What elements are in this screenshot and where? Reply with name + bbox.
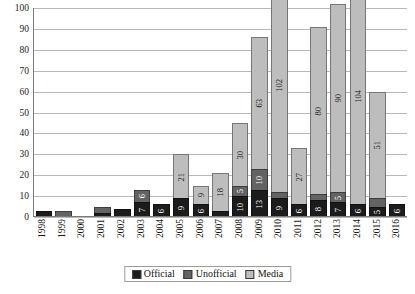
bar-value-label: 8 bbox=[314, 207, 323, 211]
x-axis-line bbox=[34, 216, 407, 217]
bar-segment-media-2007[interactable]: 18 bbox=[212, 173, 228, 211]
legend-item-unofficial[interactable]: Unofficial bbox=[184, 269, 237, 279]
bar-group-2010: 93102 bbox=[270, 8, 290, 217]
bar-value-label: 9 bbox=[177, 206, 186, 210]
bar-stack[interactable]: 7590 bbox=[330, 4, 346, 217]
bar-value-label: 51 bbox=[373, 141, 382, 150]
bar-segment-official-2005[interactable]: 9 bbox=[173, 198, 189, 217]
bar-value-label: 102 bbox=[275, 79, 284, 92]
x-axis-label-slot: 2012 bbox=[309, 219, 329, 261]
bar-value-label: 10 bbox=[255, 176, 264, 185]
bar-segment-unofficial-2003[interactable]: 6 bbox=[134, 190, 150, 203]
x-axis-label-2001: 2001 bbox=[97, 219, 107, 238]
chart-root: 0102030405060708090100 33234766921693181… bbox=[0, 0, 415, 294]
bar-value-label: 6 bbox=[393, 209, 402, 213]
legend-label-media: Media bbox=[258, 269, 284, 279]
x-axis-label-slot: 2001 bbox=[92, 219, 112, 261]
x-axis-label-slot: 2013 bbox=[328, 219, 348, 261]
bar-stack[interactable]: 318 bbox=[212, 173, 228, 217]
y-axis-tick-80: 80 bbox=[20, 46, 35, 56]
x-axis-label-2005: 2005 bbox=[176, 219, 186, 238]
bar-value-label: 6 bbox=[354, 209, 363, 213]
x-axis-label-slot: 2002 bbox=[112, 219, 132, 261]
bar-segment-media-2008[interactable]: 30 bbox=[232, 123, 248, 186]
x-axis-label-slot: 2014 bbox=[348, 219, 368, 261]
bar-segment-official-2010[interactable]: 9 bbox=[271, 198, 287, 217]
bar-value-label: 5 bbox=[334, 196, 343, 200]
bar-stack[interactable]: 131063 bbox=[251, 37, 267, 217]
legend-swatch-media bbox=[246, 270, 255, 279]
x-axis-label-2004: 2004 bbox=[156, 219, 166, 238]
bar-segment-unofficial-2012[interactable]: 3 bbox=[310, 194, 326, 200]
x-axis-label-slot: 1998 bbox=[33, 219, 53, 261]
bar-segment-unofficial-2008[interactable]: 5 bbox=[232, 186, 248, 196]
bar-segment-unofficial-2013[interactable]: 5 bbox=[330, 192, 346, 202]
bar-segment-unofficial-2015[interactable]: 4 bbox=[369, 198, 385, 206]
bar-segment-official-2012[interactable]: 8 bbox=[310, 200, 326, 217]
bar-value-label: 9 bbox=[197, 193, 206, 197]
bar-segment-unofficial-2009[interactable]: 10 bbox=[251, 169, 267, 190]
y-axis-tick-20: 20 bbox=[20, 171, 35, 181]
bar-group-2012: 8380 bbox=[309, 8, 329, 217]
x-axis-label-2015: 2015 bbox=[373, 219, 383, 238]
legend-item-media[interactable]: Media bbox=[246, 269, 284, 279]
x-axis-label-1998: 1998 bbox=[38, 219, 48, 238]
bar-segment-official-2013[interactable]: 7 bbox=[330, 202, 346, 217]
bar-group-2015: 5451 bbox=[368, 8, 388, 217]
bar-stack[interactable]: 5451 bbox=[369, 92, 385, 217]
x-axis-label-slot: 2003 bbox=[131, 219, 151, 261]
bar-segment-media-2012[interactable]: 80 bbox=[310, 27, 326, 194]
bar-value-label: 9 bbox=[275, 206, 284, 210]
bar-stack[interactable]: 76 bbox=[134, 190, 150, 217]
x-axis-label-2006: 2006 bbox=[196, 219, 206, 238]
bar-value-label: 63 bbox=[255, 99, 264, 108]
bar-segment-media-2006[interactable]: 9 bbox=[193, 186, 209, 205]
x-axis-label-2012: 2012 bbox=[314, 219, 324, 238]
legend-swatch-official bbox=[132, 270, 141, 279]
bar-group-1999: 3 bbox=[54, 8, 74, 217]
bar-stack[interactable]: 6104 bbox=[350, 0, 366, 217]
x-axis-label-2000: 2000 bbox=[77, 219, 87, 238]
bar-value-label: 13 bbox=[255, 200, 264, 209]
x-axis-label-2002: 2002 bbox=[117, 219, 127, 238]
bar-segment-media-2011[interactable]: 27 bbox=[291, 148, 307, 204]
bar-stack[interactable]: 921 bbox=[173, 154, 189, 217]
bar-segment-unofficial-2001[interactable]: 3 bbox=[94, 207, 110, 213]
bar-segment-media-2014[interactable]: 104 bbox=[350, 0, 366, 204]
bar-group-2002: 4 bbox=[113, 8, 133, 217]
bar-segment-media-2005[interactable]: 21 bbox=[173, 154, 189, 198]
bar-segment-official-2003[interactable]: 7 bbox=[134, 202, 150, 217]
x-axis-label-2003: 2003 bbox=[137, 219, 147, 238]
x-axis-label-slot: 2016 bbox=[387, 219, 407, 261]
bar-value-label: 7 bbox=[334, 208, 343, 212]
bar-stack[interactable]: 627 bbox=[291, 148, 307, 217]
x-axis-label-slot: 2015 bbox=[368, 219, 388, 261]
plot-area: 0102030405060708090100 33234766921693181… bbox=[33, 8, 407, 217]
chart-legend: Official Unofficial Media bbox=[124, 266, 291, 282]
legend-item-official[interactable]: Official bbox=[132, 269, 175, 279]
legend-label-unofficial: Unofficial bbox=[196, 269, 237, 279]
bar-segment-media-2015[interactable]: 51 bbox=[369, 92, 385, 199]
bar-stack[interactable]: 8380 bbox=[310, 27, 326, 217]
bar-group-2005: 921 bbox=[171, 8, 191, 217]
bar-stack[interactable]: 10530 bbox=[232, 123, 248, 217]
x-axis-label-slot: 1999 bbox=[53, 219, 73, 261]
bar-group-2004: 6 bbox=[152, 8, 172, 217]
bar-stack[interactable]: 69 bbox=[193, 186, 209, 217]
bar-value-label: 5 bbox=[236, 189, 245, 193]
bar-group-2016: 6 bbox=[387, 8, 407, 217]
bar-group-2001: 23 bbox=[93, 8, 113, 217]
bar-segment-official-2008[interactable]: 10 bbox=[232, 196, 248, 217]
bar-group-2008: 10530 bbox=[230, 8, 250, 217]
bar-segment-media-2009[interactable]: 63 bbox=[251, 37, 267, 169]
bar-segment-official-2009[interactable]: 13 bbox=[251, 190, 267, 217]
y-axis-tick-90: 90 bbox=[20, 25, 35, 35]
bar-segment-media-2010[interactable]: 102 bbox=[271, 0, 287, 192]
bar-segment-unofficial-2010[interactable]: 3 bbox=[271, 192, 287, 198]
bar-value-label: 90 bbox=[334, 94, 343, 103]
bar-segment-media-2013[interactable]: 90 bbox=[330, 4, 346, 192]
bar-stack[interactable]: 93102 bbox=[271, 0, 287, 217]
x-axis-label-2009: 2009 bbox=[255, 219, 265, 238]
y-axis-tick-70: 70 bbox=[20, 67, 35, 77]
x-axis-label-2016: 2016 bbox=[392, 219, 402, 238]
